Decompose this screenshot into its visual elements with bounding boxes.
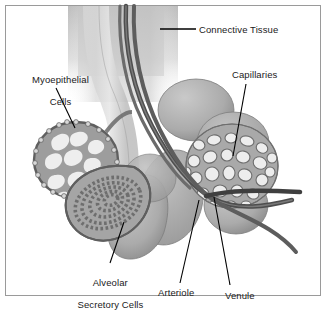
label-alveolar-secretory-cells: Alveolar Secretory Cells bbox=[55, 266, 155, 314]
label-arteriole: Arteriole bbox=[158, 287, 194, 298]
label-connective-tissue: Connective Tissue bbox=[199, 24, 278, 35]
label-myoepithelial-cells: Myoepithelial Cells bbox=[10, 63, 100, 118]
label-alveolar-secretory-cells-line2: Secretory Cells bbox=[78, 299, 144, 310]
label-myoepithelial-cells-line2: Cells bbox=[50, 96, 72, 107]
label-capillaries: Capillaries bbox=[232, 69, 277, 80]
label-myoepithelial-cells-line1: Myoepithelial bbox=[32, 74, 89, 85]
label-alveolar-secretory-cells-line1: Alveolar bbox=[93, 277, 128, 288]
label-venule: Venule bbox=[225, 290, 255, 301]
